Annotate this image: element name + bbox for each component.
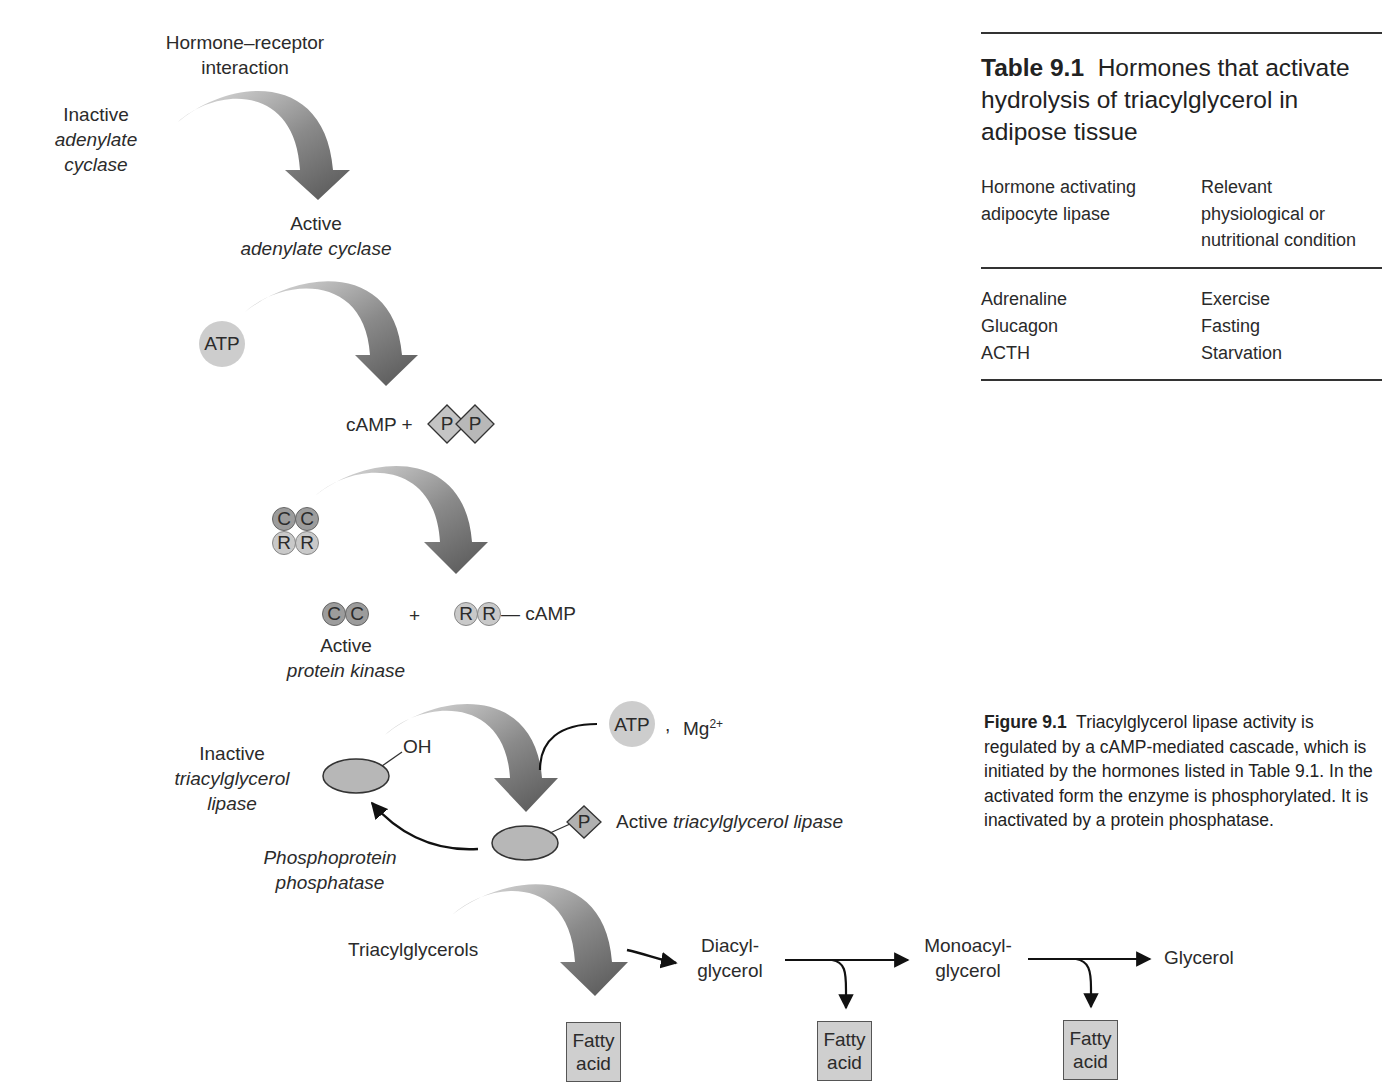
phosphate-2-label: P [466,411,484,436]
table-title-line1: Hormones that activate [1098,54,1350,81]
triacylglycerol-word: triacylglycerol [160,766,304,791]
phosphate-1-label: P [438,411,456,436]
inactive-lipase-label: Inactive triacylglycerol lipase [160,741,304,816]
acid-word: acid [1064,1050,1117,1073]
hydrolysis-arrow-1 [627,950,676,963]
table-label: Table 9.1 [981,54,1084,81]
fatty-word: Fatty [1064,1027,1117,1050]
table-header-rule [981,267,1382,269]
cascade-arrow-5 [452,884,628,996]
table-row: Exercise [1201,286,1270,313]
monoacyl-word: Monoacyl- [913,933,1023,958]
header-line: adipocyte lipase [981,201,1136,228]
mg-charge: 2+ [709,717,723,731]
fatty-acid-box: Fatty acid [566,1022,621,1082]
triacylglycerols-label: Triacylglycerols [348,937,478,962]
glycerol-word: glycerol [913,958,1023,983]
figure-label: Figure 9.1 [984,712,1067,732]
fatty-acid-box: Fatty acid [817,1021,872,1081]
cascade-arrow-1 [178,91,350,200]
inactive-word: Inactive [40,102,152,127]
hormone-receptor-line2: interaction [140,55,350,80]
condition-cell: Starvation [1201,343,1282,363]
hormone-cell: ACTH [981,343,1030,363]
bound-camp-label: — cAMP [501,601,576,626]
protein-kinase-word: protein kinase [266,658,426,683]
hydroxyl-group-label: OH [403,734,432,759]
table-row: Glucagon [981,313,1058,340]
atp-cofactor-label: ATP [609,712,655,737]
adenylate-cyclase-word: adenylate cyclase [216,236,416,261]
active-lipase-label: Active triacylglycerol lipase [616,809,843,834]
active-adenylate-cyclase-label: Active adenylate cyclase [216,211,416,261]
acid-word: acid [818,1051,871,1074]
diacyl-word: Diacyl- [680,933,780,958]
atp-label: ATP [199,331,245,356]
hormone-cell: Adrenaline [981,289,1067,309]
condition-cell: Fasting [1201,316,1260,336]
fatty-acid-box: Fatty acid [1063,1020,1118,1080]
hydrolysis-arrow-3 [1028,959,1150,1007]
triacylglycerol-lipase-word: triacylglycerol lipase [673,811,843,832]
glycerol-label: Glycerol [1164,945,1234,970]
hormone-receptor-label: Hormone–receptor interaction [140,30,350,80]
phosphoprotein-phosphatase-label: Phosphoprotein phosphatase [245,845,415,895]
adenylate-word: adenylate [40,127,152,152]
inactive-word: Inactive [160,741,304,766]
c-subunit-label: C [274,506,294,531]
comma-separator: , [665,712,670,737]
table-top-rule [981,32,1382,34]
mg-symbol: Mg [683,718,709,739]
inactive-adenylate-cyclase-label: Inactive adenylate cyclase [40,102,152,177]
r-subunit-label: R [274,530,294,555]
table-header-hormone: Hormone activating adipocyte lipase [981,174,1136,227]
fatty-word: Fatty [567,1029,620,1052]
table-title-line2: hydrolysis of triacylglycerol in [981,84,1382,116]
monoacylglycerol-label: Monoacyl- glycerol [913,933,1023,983]
acid-word: acid [567,1052,620,1075]
hormone-receptor-line1: Hormone–receptor [140,30,350,55]
phosphatase-word: phosphatase [245,870,415,895]
header-line: physiological or [1201,201,1356,228]
r-subunit-label: R [479,601,499,626]
c-subunit-label: C [324,601,344,626]
header-line: Relevant [1201,174,1356,201]
phosphoprotein-word: Phosphoprotein [245,845,415,870]
cofactor-connector [540,724,597,770]
camp-product-label: cAMP + [346,412,413,437]
table-row: Adrenaline [981,286,1067,313]
table-row: ACTH [981,340,1030,367]
phosphate-group-label: P [575,809,593,834]
r-subunit-label: R [297,530,317,555]
cascade-arrow-3 [315,466,488,574]
condition-cell: Exercise [1201,289,1270,309]
active-word: Active [266,633,426,658]
header-line: Hormone activating [981,174,1136,201]
active-word: Active [616,811,668,832]
glycerol-word: glycerol [680,958,780,983]
c-subunit-label: C [297,506,317,531]
cyclase-word: cyclase [40,152,152,177]
figure-caption: Figure 9.1 Triacylglycerol lipase activi… [984,710,1382,833]
active-protein-kinase-label: Active protein kinase [266,633,426,683]
table-title-line3: adipose tissue [981,116,1382,148]
magnesium-label: Mg2+ [683,712,723,741]
hormone-cell: Glucagon [981,316,1058,336]
c-subunit-label: C [347,601,367,626]
inactive-lipase-icon [323,752,402,793]
table-row: Starvation [1201,340,1282,367]
hydrolysis-arrow-2 [785,960,908,1008]
header-line: nutritional condition [1201,227,1356,254]
fatty-word: Fatty [818,1028,871,1051]
table-bottom-rule [981,379,1382,381]
r-subunit-label: R [456,601,476,626]
diacylglycerol-label: Diacyl- glycerol [680,933,780,983]
cascade-arrow-2 [245,281,418,386]
table-row: Fasting [1201,313,1260,340]
table-header-condition: Relevant physiological or nutritional co… [1201,174,1356,254]
phosphatase-arrow [372,803,478,849]
lipase-word: lipase [160,791,304,816]
plus-sign: + [409,603,420,628]
table-title: Table 9.1 Hormones that activate hydroly… [981,52,1382,148]
